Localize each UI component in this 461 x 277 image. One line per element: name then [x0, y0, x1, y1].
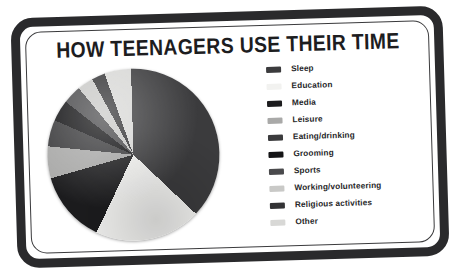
legend-item-label: Leisure: [292, 114, 322, 124]
legend-swatch: [269, 185, 284, 191]
legend-item-label: Grooming: [293, 148, 334, 158]
legend-swatch: [269, 168, 284, 174]
legend-swatch: [267, 100, 282, 106]
pie-slices: [45, 66, 222, 243]
poster-content: HOW TEENAGERS USE THEIR TIME SleepEducat…: [0, 0, 461, 277]
legend-swatch: [266, 83, 281, 89]
legend-swatch: [266, 66, 281, 72]
legend-item: Other: [270, 209, 450, 231]
legend-swatch: [270, 202, 285, 208]
legend-swatch: [268, 134, 283, 140]
pie-chart: [45, 66, 222, 243]
legend-item-label: Sports: [294, 165, 321, 175]
legend-swatch: [270, 219, 285, 225]
poster-canvas: HOW TEENAGERS USE THEIR TIME SleepEducat…: [0, 0, 461, 277]
legend-item-label: Media: [292, 98, 316, 108]
legend-item-label: Working/volunteering: [294, 181, 381, 192]
chart-legend: SleepEducationMediaLeisureEating/drinkin…: [266, 56, 451, 231]
legend-item-label: Education: [291, 80, 332, 90]
legend-swatch: [268, 151, 283, 157]
legend-item-label: Other: [295, 217, 318, 227]
legend-item-label: Eating/drinking: [293, 131, 355, 142]
legend-item-label: Religious activities: [295, 198, 372, 209]
legend-item-label: Sleep: [291, 64, 314, 74]
legend-swatch: [267, 117, 282, 123]
